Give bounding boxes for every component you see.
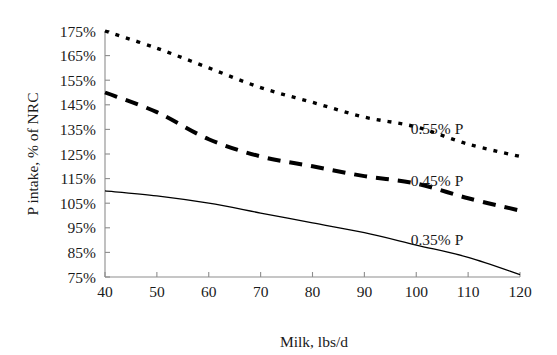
series-line-1 <box>105 93 520 211</box>
x-tick-label: 120 <box>508 283 532 300</box>
y-tick-label: 155% <box>60 72 96 89</box>
y-tick-label: 75% <box>68 269 97 286</box>
x-axis-tick-labels: 405060708090100110120 <box>97 283 532 300</box>
y-axis-tick-labels: 75%85%95%105%115%125%135%145%155%165%175… <box>60 23 96 286</box>
y-tick-label: 105% <box>60 195 96 212</box>
series-label-1: 0.45% P <box>411 172 464 189</box>
x-tick-label: 40 <box>97 283 113 300</box>
x-axis-title: Milk, lbs/d <box>280 333 348 350</box>
series-label-2: 0.35% P <box>411 231 464 248</box>
x-tick-label: 50 <box>149 283 165 300</box>
x-axis-ticks <box>105 272 520 277</box>
x-tick-label: 110 <box>457 283 480 300</box>
series-label-0: 0.55% P <box>411 120 464 137</box>
x-tick-label: 60 <box>201 283 217 300</box>
x-tick-label: 90 <box>357 283 373 300</box>
y-tick-label: 95% <box>68 219 97 236</box>
y-axis-ticks <box>105 31 110 277</box>
x-tick-label: 80 <box>305 283 321 300</box>
x-tick-label: 100 <box>405 283 429 300</box>
series-line-0 <box>105 31 520 156</box>
y-tick-label: 135% <box>60 121 96 138</box>
line-chart: 405060708090100110120 75%85%95%105%115%1… <box>0 0 557 355</box>
y-tick-label: 175% <box>60 23 96 40</box>
y-tick-label: 145% <box>60 96 96 113</box>
chart-container: 405060708090100110120 75%85%95%105%115%1… <box>0 0 557 355</box>
y-tick-label: 85% <box>68 244 97 261</box>
y-tick-label: 165% <box>60 47 96 64</box>
x-tick-label: 70 <box>253 283 269 300</box>
series-label-group: 0.55% P0.45% P0.35% P <box>411 120 464 248</box>
y-axis-title: P intake, % of NRC <box>24 93 41 216</box>
y-tick-label: 115% <box>60 170 96 187</box>
y-tick-label: 125% <box>60 146 96 163</box>
